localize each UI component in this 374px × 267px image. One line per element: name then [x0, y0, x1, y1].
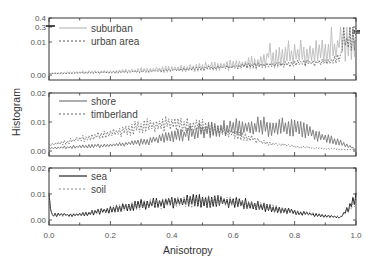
y-tick-label: 0.01	[30, 38, 46, 47]
series-urban-area	[49, 27, 356, 74]
y-axis-title: Histogram	[10, 82, 22, 142]
y-tick-label: 0.00	[30, 216, 46, 225]
svg-text:suburban: suburban	[91, 23, 133, 34]
legend-item-soil: soil	[59, 184, 106, 195]
series-sea	[49, 193, 356, 218]
y-tick-label: 0.00	[30, 147, 46, 156]
x-tick-label: 0.4	[166, 231, 178, 240]
x-axis-title: Anisotropy	[163, 244, 213, 256]
y-tick-label: 0.01	[30, 118, 46, 127]
svg-text:timberland: timberland	[91, 109, 138, 120]
svg-text:soil: soil	[91, 184, 106, 195]
histogram-chart: suburbanurban areashoretimberlandseasoil…	[0, 0, 374, 267]
x-tick-label: 0.8	[289, 231, 301, 240]
x-tick-label: 0.6	[228, 231, 240, 240]
legend-item-timberland: timberland	[59, 109, 138, 120]
svg-text:shore: shore	[91, 96, 116, 107]
x-tick-label: 0.0	[43, 231, 55, 240]
y-tick-label: 0.02	[30, 89, 46, 98]
x-tick-label: 0.2	[105, 231, 117, 240]
y-tick-label: 0.3	[35, 23, 47, 32]
legend-item-urban-area: urban area	[59, 36, 140, 47]
y-tick-label: 0.01	[30, 190, 46, 199]
legend-item-shore: shore	[59, 96, 116, 107]
svg-text:urban area: urban area	[91, 36, 140, 47]
x-tick-label: 1.0	[350, 231, 362, 240]
y-tick-label: 0.00	[30, 71, 46, 80]
y-tick-label: 0.02	[30, 164, 46, 173]
svg-text:sea: sea	[91, 171, 108, 182]
legend-item-sea: sea	[59, 171, 108, 182]
legend-item-suburban: suburban	[59, 23, 133, 34]
y-tick-label: 0.4	[35, 14, 47, 23]
